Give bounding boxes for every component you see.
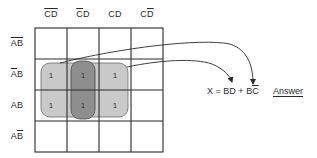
cell-r2-c2: 1 bbox=[113, 101, 118, 110]
cell-r1-c1: 1 bbox=[81, 71, 86, 80]
cell-r2-c1: 1 bbox=[81, 101, 86, 110]
simplified-expression: X = BD + BC bbox=[207, 86, 259, 96]
map-grid bbox=[35, 28, 163, 152]
cell-r1-c0: 1 bbox=[49, 71, 54, 80]
cell-r2-c0: 1 bbox=[49, 101, 54, 110]
cell-r1-c2: 1 bbox=[113, 71, 118, 80]
answer-label: Answer bbox=[273, 86, 303, 96]
karnaugh-map: 1 1 1 1 1 1 bbox=[0, 0, 317, 158]
arrow-to-bd bbox=[127, 60, 232, 82]
